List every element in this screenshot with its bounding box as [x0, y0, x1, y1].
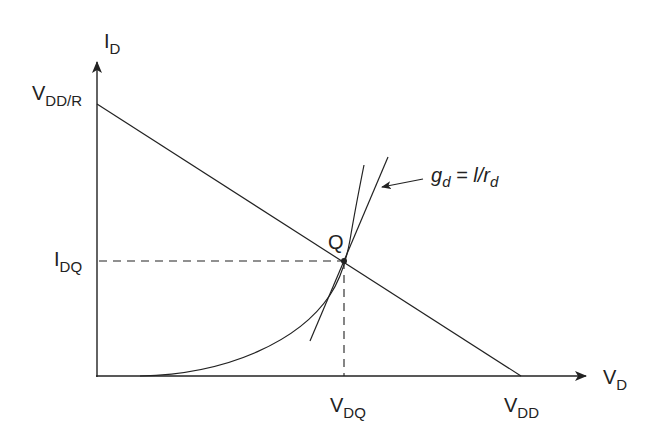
vdq-label: VDQ	[330, 394, 366, 421]
gd-annotation-label: gd = l/rd	[431, 164, 499, 190]
vdd-label: VDD	[504, 394, 539, 421]
mosfet-load-line-diagram: ID VD VDD/R IDQ VDQ VDD Q gd = l/rd	[0, 0, 660, 438]
tangent-line	[310, 157, 388, 341]
q-point-label: Q	[328, 231, 344, 253]
gd-annotation-arrow	[382, 179, 423, 187]
characteristic-curve	[140, 165, 364, 376]
y-axis-label: ID	[104, 30, 121, 57]
idq-label: IDQ	[54, 248, 82, 275]
q-point-marker	[341, 258, 347, 264]
vdd-over-r-label: VDD/R	[32, 82, 82, 109]
x-axis-label: VD	[603, 366, 627, 393]
load-line	[97, 104, 521, 376]
